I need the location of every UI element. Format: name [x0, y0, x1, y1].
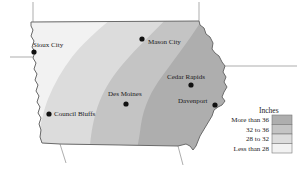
legend-swatch-28-to-32 — [272, 134, 292, 144]
city-dot-council-bluffs[interactable] — [46, 111, 51, 116]
iowa-precipitation-map: Sioux City Mason City Cedar Rapids Des M… — [0, 0, 298, 175]
city-label-sioux-city: Sioux City — [33, 41, 64, 49]
city-dot-mason-city[interactable] — [139, 36, 144, 41]
legend-label-32-to-36: 32 to 36 — [246, 126, 269, 134]
legend-label-less-than-28: Less than 28 — [234, 145, 270, 153]
legend-labels: More than 36 32 to 36 28 to 32 Less than… — [231, 116, 269, 153]
city-dot-des-moines[interactable] — [123, 101, 128, 106]
precipitation-bands — [25, 15, 235, 160]
legend-swatch-less-than-28 — [272, 144, 292, 154]
legend-label-more-than-36: More than 36 — [231, 116, 269, 124]
city-label-davenport: Davenport — [178, 97, 208, 105]
legend-label-28-to-32: 28 to 32 — [246, 135, 269, 143]
city-label-mason-city: Mason City — [148, 38, 181, 46]
legend: Inches More than 36 32 to 36 28 to 32 Le… — [231, 106, 292, 153]
city-dot-davenport[interactable] — [212, 102, 217, 107]
legend-swatch-more-than-36 — [272, 115, 292, 125]
legend-title: Inches — [259, 106, 279, 115]
city-label-des-moines: Des Moines — [108, 90, 142, 98]
city-dot-cedar-rapids[interactable] — [188, 82, 193, 87]
precipitation-map-figure: Sioux City Mason City Cedar Rapids Des M… — [0, 0, 298, 175]
legend-swatch-32-to-36 — [272, 125, 292, 135]
city-label-cedar-rapids: Cedar Rapids — [167, 73, 205, 81]
city-dot-sioux-city[interactable] — [31, 49, 36, 54]
legend-swatches — [272, 115, 292, 153]
city-label-council-bluffs: Council Bluffs — [54, 110, 96, 118]
